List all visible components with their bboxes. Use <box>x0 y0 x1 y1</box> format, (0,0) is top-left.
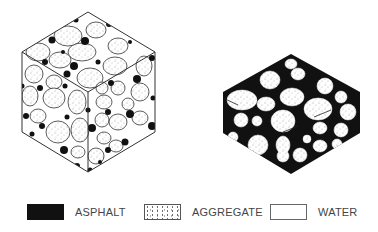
cube-diagram <box>20 12 157 173</box>
hexagon-diagram <box>223 54 360 174</box>
legend-label-aggregate: AGGREGATE <box>192 206 263 218</box>
legend-item-asphalt: ASPHALT <box>27 202 126 222</box>
asphalt-swatch <box>27 204 64 220</box>
legend-label-asphalt: ASPHALT <box>75 206 126 218</box>
legend-label-water: WATER <box>318 206 358 218</box>
figure-canvas <box>0 0 378 232</box>
legend-item-water: WATER <box>270 202 358 222</box>
aggregate-swatch <box>144 204 181 220</box>
water-swatch <box>270 204 307 220</box>
legend-item-aggregate: AGGREGATE <box>144 202 263 222</box>
